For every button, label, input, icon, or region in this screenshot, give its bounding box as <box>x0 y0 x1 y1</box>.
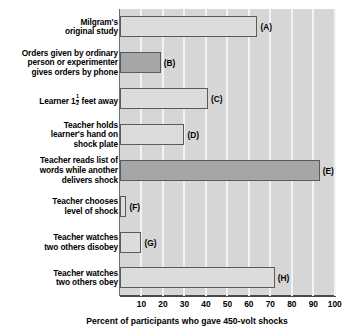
category-label: Teacher holdslearner's hand onshock plat… <box>4 121 118 150</box>
bar-D <box>120 124 184 145</box>
bar-C <box>120 88 208 109</box>
bar-tag-E: (E) <box>323 166 334 176</box>
bar-row: Teacher reads list ofwords while another… <box>0 152 352 188</box>
bar-row: Learner 112 feet away(C) <box>0 81 352 117</box>
x-axis-label-text: Percent of participants who gave 450-vol… <box>86 316 288 326</box>
bar-row: Teacher watchestwo others disobey(G) <box>0 224 352 260</box>
category-label-line: Learner 112 feet away <box>4 94 118 107</box>
category-label: Teacher chooseslevel of shock <box>4 197 118 216</box>
category-label-line: shock plate <box>4 140 118 150</box>
bar-tag-D: (D) <box>187 130 199 140</box>
bar-H <box>120 267 275 288</box>
category-label-line: level of shock <box>4 207 118 217</box>
x-tick-label-30: 30 <box>173 299 195 309</box>
category-label: Teacher watchestwo others obey <box>4 269 118 288</box>
x-tick-label-20: 20 <box>152 299 174 309</box>
category-label: Orders given by ordinaryperson or experi… <box>4 49 118 78</box>
category-label-line: delivers shock <box>4 176 118 186</box>
x-tick-label-40: 40 <box>195 299 217 309</box>
fraction-one-half: 12 <box>76 94 79 106</box>
category-label-line: two others obey <box>4 278 118 288</box>
x-tick-label-90: 90 <box>302 299 324 309</box>
category-label: Teacher reads list ofwords while another… <box>4 156 118 185</box>
bar-B <box>120 52 161 73</box>
x-tick-label-60: 60 <box>238 299 260 309</box>
category-label: Teacher watchestwo others disobey <box>4 233 118 252</box>
bar-A <box>120 16 257 37</box>
category-label-line: two others disobey <box>4 243 118 253</box>
bar-row: Orders given by ordinaryperson or experi… <box>0 45 352 81</box>
bar-E <box>120 160 320 181</box>
bar-chart-figure: Milgram'soriginal study(A)Orders given b… <box>0 0 352 333</box>
x-tick-label-50: 50 <box>216 299 238 309</box>
bar-tag-A: (A) <box>260 22 272 32</box>
category-label-line: original study <box>4 27 118 37</box>
bar-tag-G: (G) <box>144 238 156 248</box>
x-tick-label-100: 100 <box>324 299 346 309</box>
x-axis-label: Percent of participants who gave 450-vol… <box>0 316 352 326</box>
bar-tag-C: (C) <box>211 94 223 104</box>
bar-tag-H: (H) <box>278 273 290 283</box>
bar-tag-F: (F) <box>129 202 140 212</box>
bar-tag-B: (B) <box>164 58 176 68</box>
category-label-line: gives orders by phone <box>4 68 118 78</box>
bar-F <box>120 196 126 217</box>
bar-row: Teacher watchestwo others obey(H) <box>0 260 352 296</box>
bar-G <box>120 232 141 253</box>
x-tick-label-10: 10 <box>130 299 152 309</box>
x-tick-label-80: 80 <box>281 299 303 309</box>
category-label: Learner 112 feet away <box>4 94 118 107</box>
bar-row: Milgram'soriginal study(A) <box>0 9 352 45</box>
category-label: Milgram'soriginal study <box>4 18 118 37</box>
bar-row: Teacher chooseslevel of shock(F) <box>0 188 352 224</box>
bar-row: Teacher holdslearner's hand onshock plat… <box>0 117 352 153</box>
x-tick-label-70: 70 <box>259 299 281 309</box>
